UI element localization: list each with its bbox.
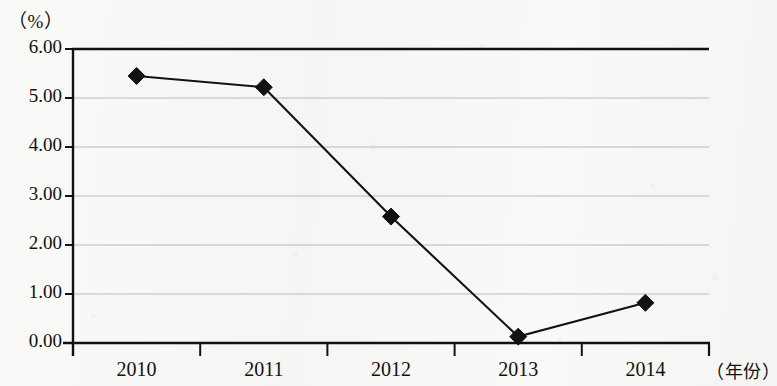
- x-axis-ticks-group: [200, 343, 582, 356]
- data-point-marker: [128, 67, 145, 84]
- data-point-marker: [637, 294, 654, 311]
- axes-group: [63, 48, 710, 356]
- chart-figure: （%） （年份） 6.00 5.00 4.00 3.00 2.00 1.00 0…: [0, 0, 777, 386]
- series-line-group: [137, 76, 646, 337]
- series-markers-group: [128, 67, 654, 345]
- series-line: [137, 76, 646, 337]
- line-chart-plot: [0, 0, 777, 386]
- gridlines-group: [73, 98, 709, 294]
